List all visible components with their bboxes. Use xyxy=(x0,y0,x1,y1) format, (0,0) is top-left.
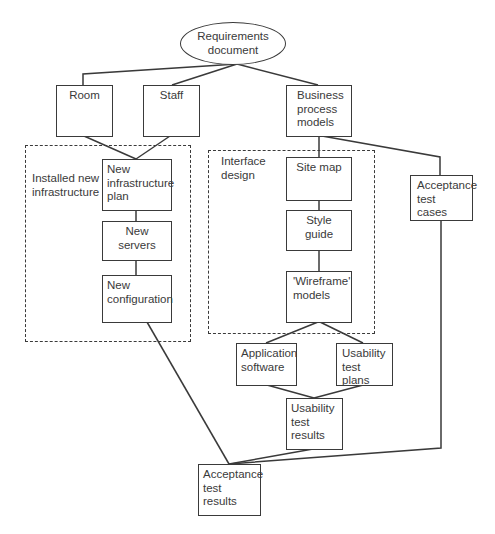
node-room: Room xyxy=(56,85,113,137)
node-style-guide: Style guide xyxy=(286,210,352,251)
node-application-software: Application software xyxy=(236,343,297,386)
node-requirements-document: Requirements document xyxy=(180,22,286,65)
edge-app-utr xyxy=(267,385,314,398)
node-site-map: Site map xyxy=(286,157,352,201)
node-new-servers: New servers xyxy=(102,221,172,261)
node-new-infrastructure-plan: New infrastructure plan xyxy=(102,159,172,211)
node-usability-test-results: Usability test results xyxy=(286,398,343,450)
node-acceptance-test-cases: Acceptance test cases xyxy=(410,175,473,221)
edge-root-bpm xyxy=(237,64,318,85)
node-usability-test-plans: Usability test plans xyxy=(336,343,393,386)
diagram-canvas: Installed new infrastructure Interface d… xyxy=(0,0,495,534)
node-new-configuration: New configuration xyxy=(102,275,172,323)
node-business-process-models: Business process models xyxy=(286,85,352,137)
group-installed-infrastructure-label: Installed new infrastructure xyxy=(32,172,99,199)
node-wireframe-models: 'Wireframe' models xyxy=(286,271,352,323)
edge-config-atr xyxy=(147,322,229,464)
group-interface-design-label: Interface design xyxy=(221,155,266,182)
edge-utr-atr xyxy=(229,449,313,464)
edge-root-room xyxy=(83,64,237,85)
node-acceptance-test-results: Acceptance test results xyxy=(198,464,261,516)
node-staff: Staff xyxy=(143,85,200,137)
